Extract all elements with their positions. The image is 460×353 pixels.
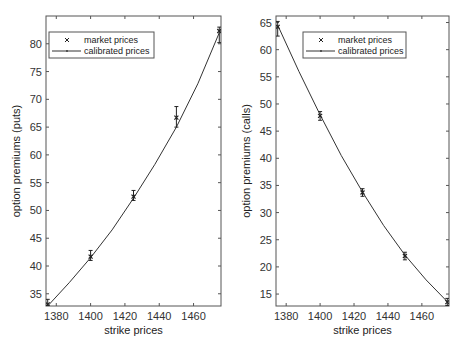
x-tick-label: 1400 [308,310,332,322]
plot-area [46,27,222,306]
y-tick-label: 50 [30,204,42,216]
y-tick-label: 70 [30,93,42,105]
calibrated-prices-line [278,25,448,302]
legend: market pricescalibrated prices [303,32,406,58]
x-tick-label: 1460 [410,310,434,322]
y-tick-label: 45 [260,125,272,137]
legend-dot-icon [66,50,68,52]
y-tick-label: 55 [260,71,272,83]
y-tick-label: 40 [260,152,272,164]
y-tick-label: 65 [260,17,272,29]
plot-frame [46,16,221,306]
y-tick-label: 30 [260,207,272,219]
x-tick-label: 1400 [78,310,102,322]
y-tick-label: 45 [30,232,42,244]
legend-dot-icon [320,50,322,52]
plot-area [276,21,450,305]
y-tick-label: 80 [30,38,42,50]
y-tick-label: 25 [260,234,272,246]
y-tick-label: 65 [30,121,42,133]
x-tick-label: 1420 [342,310,366,322]
x-tick-label: 1380 [274,310,298,322]
market-price-point [132,190,136,200]
y-tick-label: 40 [30,260,42,272]
x-tick-label: 1440 [376,310,400,322]
y-axis-label: option premiums (calls) [240,104,252,218]
y-tick-label: 50 [260,98,272,110]
x-tick-label: 1420 [113,310,137,322]
x-tick-label: 1460 [181,310,205,322]
y-tick-label: 35 [30,288,42,300]
y-tick-label: 60 [260,44,272,56]
y-tick-label: 20 [260,261,272,273]
plot-puts: 1380140014201440146035404550556065707580… [10,16,221,336]
calibrated-prices-line [48,33,220,306]
y-axis-label: option premiums (puts) [10,105,22,218]
legend-market-prices: market prices [338,35,393,45]
y-tick-label: 55 [30,177,42,189]
legend: market pricescalibrated prices [49,32,154,58]
x-tick-label: 1380 [44,310,68,322]
legend-market-prices: market prices [84,35,139,45]
x-tick-label: 1440 [147,310,171,322]
y-tick-label: 75 [30,66,42,78]
plot-frame [276,16,449,306]
y-tick-label: 15 [260,288,272,300]
y-tick-label: 35 [260,179,272,191]
legend-calibrated-prices: calibrated prices [84,46,150,56]
plot-calls: 1380140014201440146015202530354045505560… [240,16,449,336]
y-tick-label: 60 [30,149,42,161]
x-axis-label: strike prices [104,324,163,336]
x-axis-label: strike prices [333,324,392,336]
chart-canvas: 1380140014201440146035404550556065707580… [0,0,460,353]
legend-calibrated-prices: calibrated prices [338,46,404,56]
